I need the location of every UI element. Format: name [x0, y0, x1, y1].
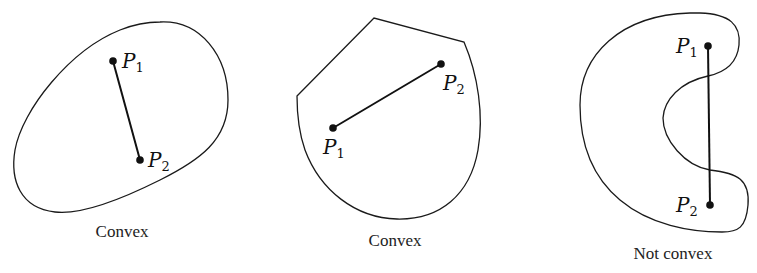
label-p1: P1 [121, 49, 144, 75]
convex-blob-outline [14, 22, 228, 212]
figure-not-convex: P1 P2 Not convex [580, 13, 748, 263]
label-p1: P1 [322, 135, 345, 161]
figure-convex-polygonal: P1 P2 Convex [297, 18, 480, 250]
label-p2: P2 [675, 193, 698, 219]
segment-p1-p2 [113, 61, 140, 160]
segment-p1-p2 [708, 46, 710, 205]
point-p1 [704, 42, 712, 50]
not-convex-outline [580, 13, 748, 232]
label-p2: P2 [147, 148, 170, 174]
point-p2 [706, 201, 714, 209]
point-p1 [109, 57, 117, 65]
point-p1 [329, 124, 337, 132]
label-p2: P2 [442, 71, 465, 97]
point-p2 [437, 60, 445, 68]
caption-figure-1: Convex [96, 222, 149, 241]
caption-figure-2: Convex [369, 231, 422, 250]
point-p2 [136, 156, 144, 164]
convex-polygonal-outline [297, 18, 480, 219]
figure-convex-blob: P1 P2 Convex [14, 22, 228, 241]
caption-figure-3: Not convex [634, 244, 713, 263]
segment-p1-p2 [333, 64, 441, 128]
label-p1: P1 [675, 34, 698, 60]
convexity-diagram: P1 P2 Convex P1 P2 Convex P1 P2 Not conv… [0, 0, 757, 273]
